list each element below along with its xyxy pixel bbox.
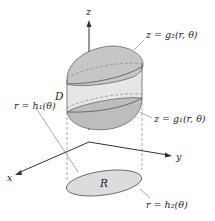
y-axis-label: y <box>175 151 182 162</box>
lower-surface-label: z = g₁(r, θ) <box>153 113 206 124</box>
z-axis-label: z <box>85 6 92 17</box>
upper-surface-label: z = g₂(r, θ) <box>145 29 198 40</box>
y-axis-arrow-icon <box>165 153 172 158</box>
region-R: R <box>65 166 144 200</box>
inner-curve-label: r = h₁(θ) <box>14 100 56 111</box>
outer-curve-label: r = h₂(θ) <box>146 199 188 210</box>
x-axis-arrow-icon <box>15 170 22 175</box>
region-label: R <box>99 177 108 189</box>
x-axis-label: x <box>7 172 13 183</box>
z-axis-arrow-icon <box>87 20 92 27</box>
cylindrical-region-diagram: z D x y R <box>0 0 215 221</box>
